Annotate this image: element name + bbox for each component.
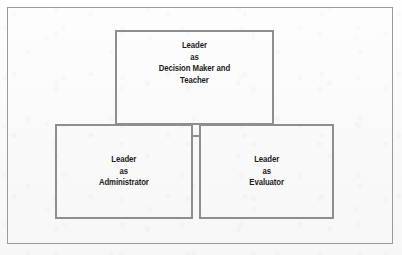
node-label-administrator: Leader as Administrator [99, 154, 149, 189]
node-label-decision-maker-teacher: Leader as Decision Maker and Teacher [159, 40, 230, 86]
node-leader-administrator: Leader as Administrator [55, 124, 193, 219]
node-leader-evaluator: Leader as Evaluator [199, 124, 334, 219]
node-leader-decision-maker-teacher: Leader as Decision Maker and Teacher [115, 30, 274, 125]
diagram-canvas: Leader as Decision Maker and Teacher Lea… [0, 0, 402, 255]
connector-administrator-evaluator [191, 135, 201, 137]
node-label-evaluator: Leader as Evaluator [249, 154, 284, 189]
